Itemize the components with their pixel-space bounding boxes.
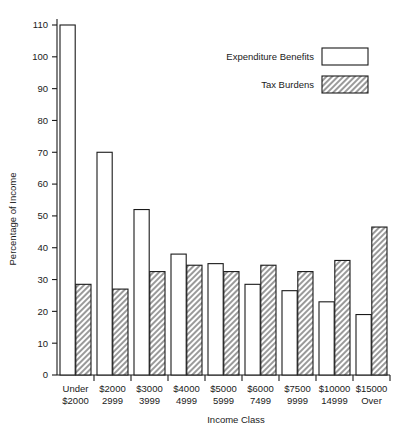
y-axis: 0102030405060708090100110 — [32, 19, 57, 380]
bar-expenditure-benefits — [97, 152, 112, 375]
y-tick-label: 70 — [37, 147, 48, 158]
y-tick-label: 60 — [37, 178, 48, 189]
bar-tax-burdens — [113, 289, 128, 375]
y-tick-label: 10 — [37, 338, 48, 349]
x-tick-label: 4999 — [176, 395, 197, 406]
x-tick-label: $10000 — [319, 383, 351, 394]
x-tick-label: $2000 — [99, 383, 125, 394]
bar-tax-burdens — [261, 265, 276, 375]
x-tick-label: $2000 — [62, 395, 88, 406]
y-tick-label: 90 — [37, 83, 48, 94]
y-tick-label: 30 — [37, 274, 48, 285]
chart-legend: Expenditure BenefitsTax Burdens — [226, 48, 368, 93]
bar-tax-burdens — [335, 260, 350, 375]
x-tick-label: 7499 — [250, 395, 271, 406]
x-tick-label: Over — [361, 395, 382, 406]
x-tick-label: $6000 — [247, 383, 273, 394]
y-tick-label: 110 — [33, 19, 48, 30]
bar-tax-burdens — [187, 265, 202, 375]
bar-tax-burdens — [224, 272, 239, 375]
y-tick-label: 100 — [32, 51, 48, 62]
bar-tax-burdens — [150, 272, 165, 375]
legend-label: Tax Burdens — [261, 79, 314, 90]
category-labels: Under$2000$20002999$30003999$40004999$50… — [62, 383, 387, 406]
legend-label: Expenditure Benefits — [226, 51, 314, 62]
bar-tax-burdens — [76, 284, 91, 375]
legend-swatch-tax-burdens — [322, 76, 368, 93]
x-tick-label: Under — [63, 383, 89, 394]
x-tick-label: $4000 — [173, 383, 199, 394]
chart-container: 0102030405060708090100110 Under$2000$200… — [0, 0, 407, 430]
bar-expenditure-benefits — [356, 315, 371, 375]
y-tick-label: 0 — [43, 369, 48, 380]
x-axis-title: Income Class — [207, 414, 265, 425]
x-tick-label: $7500 — [284, 383, 310, 394]
y-tick-label: 80 — [37, 115, 48, 126]
bar-expenditure-benefits — [319, 302, 334, 375]
x-tick-label: 2999 — [102, 395, 123, 406]
bar-expenditure-benefits — [171, 254, 186, 375]
x-tick-label: 14999 — [321, 395, 347, 406]
bar-tax-burdens — [298, 272, 313, 375]
bar-expenditure-benefits — [245, 284, 260, 375]
x-tick-label: 5999 — [213, 395, 234, 406]
x-tick-label: $5000 — [210, 383, 236, 394]
bar-expenditure-benefits — [134, 210, 149, 375]
x-tick-label: 9999 — [287, 395, 308, 406]
bar-expenditure-benefits — [282, 291, 297, 375]
x-tick-label: $3000 — [136, 383, 162, 394]
bar-expenditure-benefits — [208, 264, 223, 375]
x-tick-label: $15000 — [356, 383, 388, 394]
y-axis-title: Percentage of Income — [7, 173, 18, 266]
bar-tax-burdens — [372, 227, 387, 375]
bar-expenditure-benefits — [60, 25, 75, 375]
y-tick-label: 40 — [37, 242, 48, 253]
x-axis — [57, 375, 390, 381]
bar-chart: 0102030405060708090100110 Under$2000$200… — [0, 0, 407, 430]
y-tick-label: 20 — [37, 306, 48, 317]
legend-swatch-expenditure-benefits — [322, 48, 368, 65]
y-tick-label: 50 — [37, 210, 48, 221]
x-tick-label: 3999 — [139, 395, 160, 406]
